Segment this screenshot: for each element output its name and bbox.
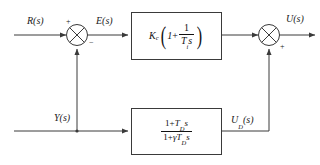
deriv-num-one: 1+: [165, 118, 175, 128]
label-error-signal: E(s): [96, 15, 113, 26]
right-paren: ): [197, 25, 202, 46]
deriv-den-subscript: D: [181, 139, 186, 146]
pi-plus: +: [172, 31, 178, 41]
label-ud-tail: (s): [243, 114, 254, 125]
deriv-num-T: T: [175, 118, 180, 128]
deriv-den-one: 1+: [163, 132, 173, 142]
label-control-output: U(s): [286, 13, 304, 24]
derivative-filter-block: 1+TDs 1+γTDs: [131, 108, 222, 155]
derivative-numerator: 1+TDs: [163, 119, 190, 131]
sign-plus-reference: +: [66, 17, 71, 26]
pi-transfer-function: Kc ( 1 + 1 Tis ): [149, 23, 204, 48]
label-derivative-feedback: UD(s): [231, 114, 254, 127]
derivative-transfer-function: 1+TDs 1+γTDs: [160, 119, 192, 144]
pi-fraction: 1 Tis: [179, 23, 194, 48]
pi-gain-subscript: c: [156, 35, 159, 42]
left-paren: (: [160, 25, 165, 46]
pi-controller-block: Kc ( 1 + 1 Tis ): [131, 12, 222, 60]
derivative-fraction: 1+TDs 1+γTDs: [161, 119, 191, 144]
pi-frac-den-s: s: [188, 35, 192, 46]
deriv-den-s: s: [186, 132, 190, 142]
pi-frac-numerator: 1: [182, 23, 191, 34]
pi-frac-denominator: Tis: [179, 34, 194, 48]
pi-gain-symbol: K: [149, 31, 156, 41]
sign-plus-derivative-feedback: +: [280, 42, 285, 51]
derivative-denominator: 1+γTDs: [161, 131, 191, 144]
deriv-num-subscript: D: [180, 125, 185, 132]
label-measured-output: Y(s): [54, 112, 70, 123]
label-reference-input: R(s): [27, 15, 44, 26]
block-diagram-canvas: Kc ( 1 + 1 Tis ) 1+TDs 1+γTDs R(s) E(s) …: [0, 0, 320, 165]
label-ud-subscript: D: [238, 123, 243, 130]
deriv-num-s: s: [184, 118, 188, 128]
sign-minus-feedback: −: [89, 38, 94, 47]
pi-frac-den-T: T: [181, 35, 187, 46]
